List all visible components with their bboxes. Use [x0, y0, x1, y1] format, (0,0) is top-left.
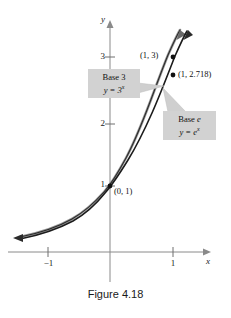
base3-leader [138, 83, 164, 93]
y-axis [105, 20, 115, 282]
point-0-1 [108, 184, 113, 189]
x-tick-label-neg1: −1 [40, 258, 57, 268]
x-tick-label-1: 1 [167, 258, 179, 268]
x-axis-label: x [206, 256, 210, 266]
callout-base-e-equation: y = ex [168, 125, 211, 138]
callout-base-3-equation: y = 3x [93, 83, 135, 96]
y-tick-label-1: 1 [96, 179, 105, 189]
point-label-0-1: (0, 1) [114, 186, 132, 196]
y-tick-label-2: 2 [96, 118, 105, 128]
callout-base-3-title: Base 3 [93, 72, 135, 83]
callout-base-e: Base e y = ex [163, 111, 216, 140]
callout-base-e-title: Base e [168, 114, 211, 125]
point-1-3 [171, 55, 176, 60]
y-axis-label: y [101, 14, 105, 24]
y-tick-label-3: 3 [96, 51, 105, 61]
curve-base-3 [20, 30, 186, 237]
figure-container: 3 2 1 −1 1 y x (1, 3) (1, 2.718) (0, 1) … [0, 0, 231, 318]
point-label-1-3: (1, 3) [140, 50, 158, 60]
point-1-2718 [171, 73, 176, 78]
callout-base-3: Base 3 y = 3x [88, 69, 140, 98]
figure-caption: Figure 4.18 [0, 288, 231, 300]
point-label-1-2718: (1, 2.718) [178, 69, 211, 79]
curve-left-arrowhead [13, 234, 23, 242]
graph-canvas [0, 0, 231, 290]
basee-leader [163, 88, 186, 112]
